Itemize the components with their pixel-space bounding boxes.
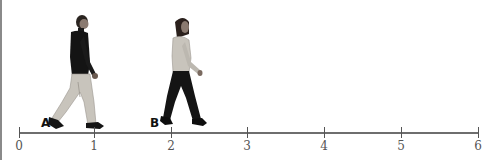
tick-label-5: 5 <box>391 139 411 153</box>
tick-label-3: 3 <box>237 139 257 153</box>
frame-border <box>0 0 2 160</box>
point-a-label: A <box>41 116 50 130</box>
number-line-axis <box>19 132 478 134</box>
tick-6 <box>478 127 479 138</box>
tick-label-6: 6 <box>468 139 488 153</box>
person-b-figure <box>155 16 220 131</box>
tick-label-4: 4 <box>314 139 334 153</box>
tick-label-0: 0 <box>9 139 29 153</box>
tick-1 <box>94 127 95 138</box>
tick-4 <box>324 127 325 138</box>
tick-0 <box>19 127 20 138</box>
point-b-label: B <box>150 116 159 130</box>
tick-5 <box>401 127 402 138</box>
tick-label-1: 1 <box>84 139 104 153</box>
tick-3 <box>247 127 248 138</box>
tick-2 <box>171 127 172 138</box>
person-a-figure <box>44 12 114 132</box>
tick-label-2: 2 <box>161 139 181 153</box>
